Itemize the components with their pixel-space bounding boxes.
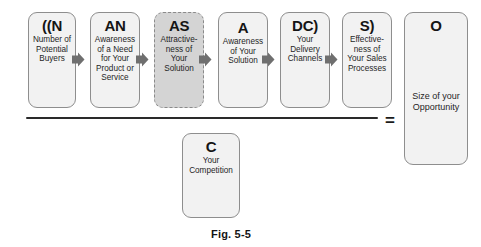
node-size-of-your-opportunity: O Size of your Opportunity: [404, 12, 468, 165]
node-description: Awareness of a Need for Your Product or …: [93, 35, 137, 83]
node-code: ((N: [42, 18, 62, 34]
node-description: Awareness of Your Solution: [221, 37, 265, 66]
node-description: Effective- ness of Your Sales Processes: [345, 35, 388, 73]
node-awareness-of-your-solution: A Awareness of Your Solution: [218, 12, 268, 108]
arrow-right-icon: [72, 52, 85, 67]
arrow-right-icon: [262, 52, 275, 67]
node-description: Your Delivery Channels: [286, 35, 325, 64]
node-awareness-of-a-need: AN Awareness of a Need for Your Product …: [90, 12, 140, 108]
node-code: DC): [292, 18, 318, 34]
arrow-right-icon: [325, 52, 338, 67]
arrow-right-icon: [136, 52, 149, 67]
opportunity-equation-diagram: ((N Number of Potential Buyers AN Awaren…: [0, 0, 481, 247]
node-your-delivery-channels: DC) Your Delivery Channels: [280, 12, 330, 108]
node-effectiveness-of-your-sales-processes: S) Effective- ness of Your Sales Process…: [342, 12, 392, 108]
equals-sign: =: [385, 112, 395, 129]
node-code: A: [238, 20, 249, 36]
node-code: AN: [104, 18, 125, 34]
node-code: S): [360, 18, 374, 34]
node-description: Attractive- ness of Your Solution: [159, 35, 200, 73]
node-description: Number of Potential Buyers: [31, 35, 73, 64]
node-code: C: [206, 139, 217, 155]
figure-caption: Fig. 5-5: [211, 228, 251, 240]
node-your-competition: C Your Competition: [182, 133, 240, 218]
node-code: AS: [169, 18, 189, 34]
node-code: O: [430, 18, 441, 34]
node-number-of-potential-buyers: ((N Number of Potential Buyers: [28, 12, 76, 108]
arrow-right-icon: [199, 52, 212, 67]
node-description: Your Competition: [187, 156, 235, 175]
node-attractiveness-of-your-solution: AS Attractive- ness of Your Solution: [154, 12, 204, 108]
fraction-bar: [26, 117, 378, 119]
node-description: Size of your Opportunity: [410, 91, 462, 112]
